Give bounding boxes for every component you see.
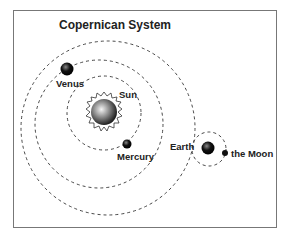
orbit-diagram bbox=[0, 0, 290, 236]
venus-icon bbox=[61, 63, 74, 76]
venus-label: Venus bbox=[56, 78, 84, 89]
earth-label: Earth bbox=[170, 141, 194, 152]
mercury-label: Mercury bbox=[117, 151, 154, 162]
earth-icon bbox=[202, 142, 215, 155]
moon-icon bbox=[222, 150, 228, 156]
moon-label: the Moon bbox=[231, 148, 273, 159]
sun-label: Sun bbox=[119, 89, 137, 100]
mercury-icon bbox=[123, 140, 132, 149]
sun-icon bbox=[91, 99, 117, 125]
